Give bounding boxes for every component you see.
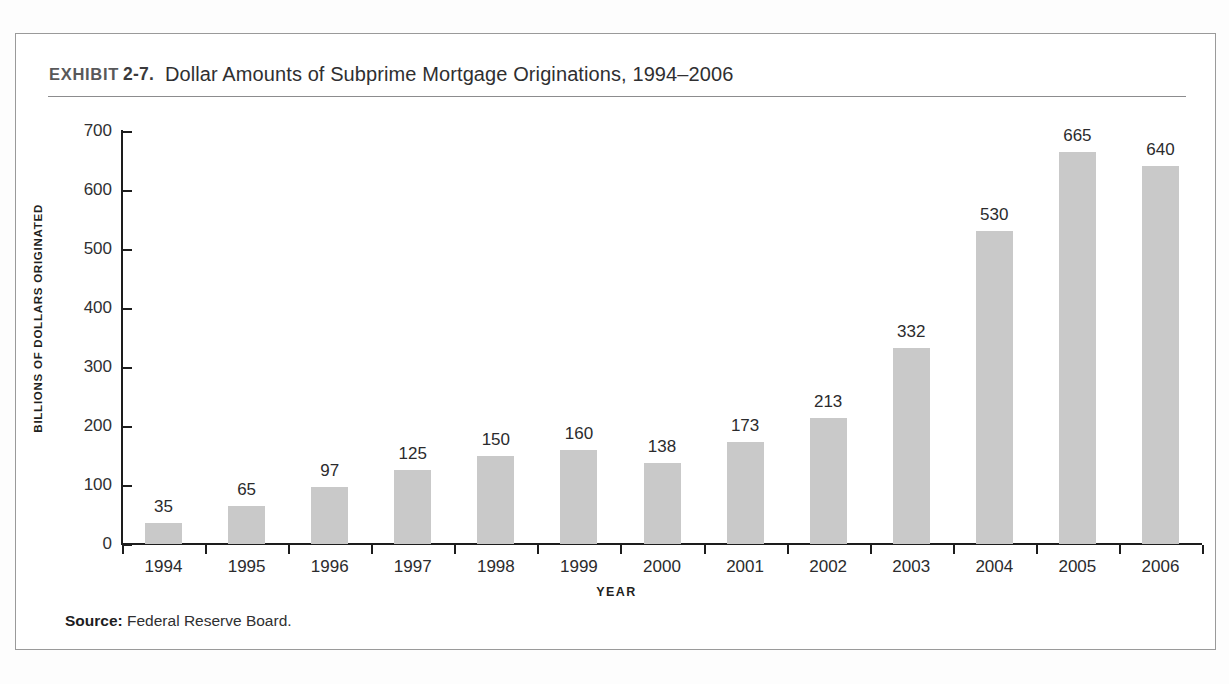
y-axis-tick-label: 600 bbox=[48, 180, 112, 200]
bar-value-label: 65 bbox=[237, 480, 256, 500]
bar bbox=[228, 506, 265, 544]
x-axis-category-label: 2003 bbox=[892, 557, 930, 577]
bar bbox=[311, 487, 348, 544]
x-axis-tick bbox=[1202, 545, 1204, 554]
bar-value-label: 160 bbox=[565, 424, 593, 444]
x-axis-tick bbox=[870, 545, 872, 554]
x-axis-tick bbox=[454, 545, 456, 554]
bar-value-label: 97 bbox=[320, 461, 339, 481]
bar bbox=[810, 418, 847, 544]
source-text: Federal Reserve Board. bbox=[123, 612, 292, 629]
x-axis-category-label: 2005 bbox=[1058, 557, 1096, 577]
bar bbox=[644, 463, 681, 544]
x-axis-tick bbox=[620, 545, 622, 554]
x-axis-category-label: 1995 bbox=[228, 557, 266, 577]
plot-bars bbox=[122, 131, 1202, 544]
x-axis-tick bbox=[787, 545, 789, 554]
bar-value-label: 125 bbox=[399, 444, 427, 464]
x-axis-tick bbox=[1119, 545, 1121, 554]
x-axis-category-label: 1999 bbox=[560, 557, 598, 577]
y-axis-tick-label: 100 bbox=[48, 475, 112, 495]
x-axis-tick bbox=[205, 545, 207, 554]
bar bbox=[976, 231, 1013, 544]
y-axis-tick bbox=[123, 544, 132, 546]
bar bbox=[893, 348, 930, 544]
x-axis-tick bbox=[537, 545, 539, 554]
bar-value-label: 138 bbox=[648, 437, 676, 457]
x-axis-category-label: 1998 bbox=[477, 557, 515, 577]
y-axis-title: BILLIONS OF DOLLARS ORIGINATED bbox=[32, 204, 44, 433]
bar bbox=[477, 456, 514, 545]
bar-value-label: 150 bbox=[482, 430, 510, 450]
x-axis-category-label: 1997 bbox=[394, 557, 432, 577]
x-axis-tick bbox=[953, 545, 955, 554]
bar-value-label: 173 bbox=[731, 416, 759, 436]
bar-value-label: 332 bbox=[897, 322, 925, 342]
bar bbox=[1059, 152, 1096, 544]
x-axis-category-label: 2000 bbox=[643, 557, 681, 577]
bar-value-label: 665 bbox=[1063, 126, 1091, 146]
bar bbox=[1142, 166, 1179, 544]
x-axis-title: YEAR bbox=[16, 585, 1217, 599]
x-axis-tick bbox=[371, 545, 373, 554]
x-axis-category-label: 1994 bbox=[145, 557, 183, 577]
y-axis-tick-label: 400 bbox=[48, 298, 112, 318]
x-axis-category-label: 2001 bbox=[726, 557, 764, 577]
bar-value-label: 213 bbox=[814, 392, 842, 412]
x-axis-category-label: 1996 bbox=[311, 557, 349, 577]
source-label: Source: bbox=[65, 612, 123, 629]
bar bbox=[727, 442, 764, 544]
bar-value-label: 530 bbox=[980, 205, 1008, 225]
y-axis-tick-label: 0 bbox=[48, 534, 112, 554]
y-axis-tick-label: 500 bbox=[48, 239, 112, 259]
y-axis-tick-label: 700 bbox=[48, 121, 112, 141]
bar bbox=[560, 450, 597, 544]
bar-value-label: 640 bbox=[1146, 140, 1174, 160]
x-axis-category-label: 2002 bbox=[809, 557, 847, 577]
bar-chart: BILLIONS OF DOLLARS ORIGINATED 010020030… bbox=[16, 34, 1217, 651]
x-axis-tick bbox=[122, 545, 124, 554]
y-axis-tick-label: 200 bbox=[48, 416, 112, 436]
bar bbox=[394, 470, 431, 544]
x-axis-category-label: 2004 bbox=[975, 557, 1013, 577]
x-axis-tick bbox=[1036, 545, 1038, 554]
bar-value-label: 35 bbox=[154, 497, 173, 517]
source-note: Source: Federal Reserve Board. bbox=[65, 612, 292, 630]
x-axis-category-label: 2006 bbox=[1142, 557, 1180, 577]
x-axis-tick bbox=[704, 545, 706, 554]
y-axis-tick-label: 300 bbox=[48, 357, 112, 377]
bar bbox=[145, 523, 182, 544]
exhibit-frame: EXHIBIT 2-7. Dollar Amounts of Subprime … bbox=[15, 33, 1216, 650]
x-axis-tick bbox=[288, 545, 290, 554]
